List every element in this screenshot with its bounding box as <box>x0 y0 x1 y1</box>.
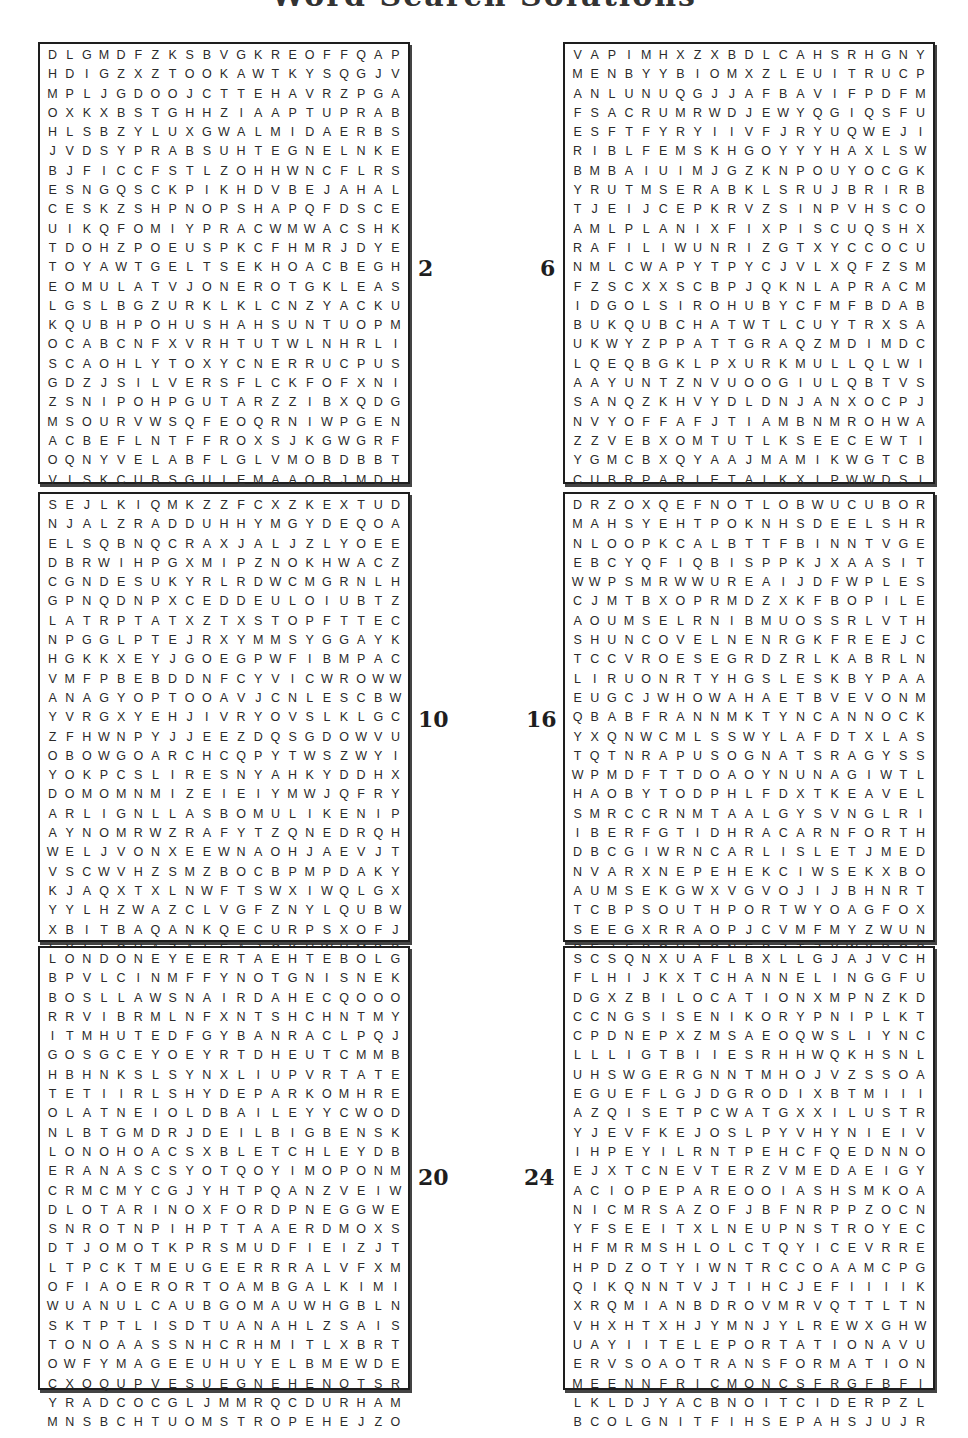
grid-letter: N <box>233 766 250 785</box>
grid-letter: H <box>113 1143 130 1162</box>
grid-letter: R <box>130 1201 147 1220</box>
grid-letter: E <box>387 1201 404 1220</box>
grid-letter: A <box>198 824 215 843</box>
grid-letter: K <box>826 451 843 470</box>
grid-letter: N <box>370 1162 387 1181</box>
grid-letter: N <box>44 1124 61 1143</box>
grid-letter: I <box>860 1124 877 1143</box>
grid-letter: J <box>95 843 112 862</box>
grid-letter: T <box>44 239 61 258</box>
grid-letter: E <box>586 1375 603 1394</box>
grid-letter: I <box>672 554 689 573</box>
grid-letter: K <box>78 766 95 785</box>
grid-letter: N <box>723 1220 740 1239</box>
grid-letter: Q <box>860 104 877 123</box>
grid-letter: L <box>843 1104 860 1123</box>
grid-letter: A <box>586 515 603 534</box>
grid-letter: T <box>895 1104 912 1123</box>
grid-letter: M <box>267 123 284 142</box>
grid-letter: A <box>569 85 586 104</box>
grid-letter: B <box>387 104 404 123</box>
grid-letter: R <box>860 278 877 297</box>
grid-letter: X <box>878 863 895 882</box>
grid-letter: T <box>620 123 637 142</box>
grid-letter: E <box>387 1355 404 1374</box>
grid-letter: Q <box>147 921 164 940</box>
grid-letter: C <box>318 1027 335 1046</box>
grid-letter: L <box>603 258 620 277</box>
grid-letter: F <box>78 1355 95 1374</box>
grid-letter: M <box>672 104 689 123</box>
grid-letter: V <box>758 1297 775 1316</box>
grid-letter: I <box>843 1278 860 1297</box>
letter-grid: SEJLKIQMKZZFCXZKEXTUDNJALZRADDUHHYMGYDEQ… <box>44 496 404 978</box>
grid-letter: K <box>740 515 757 534</box>
grid-letter: G <box>740 882 757 901</box>
grid-letter: V <box>164 278 181 297</box>
grid-letter: W <box>843 471 860 490</box>
grid-letter: O <box>843 1336 860 1355</box>
grid-letter: A <box>723 843 740 862</box>
grid-letter: U <box>61 1297 78 1316</box>
grid-letter: I <box>912 805 929 824</box>
grid-letter: L <box>95 969 112 988</box>
grid-letter: P <box>723 921 740 940</box>
grid-letter: E <box>672 181 689 200</box>
grid-letter: S <box>198 142 215 161</box>
grid-letter: G <box>164 104 181 123</box>
grid-letter: U <box>826 123 843 142</box>
grid-letter: T <box>689 515 706 534</box>
grid-letter: G <box>775 1104 792 1123</box>
grid-letter: E <box>706 863 723 882</box>
grid-letter: I <box>878 181 895 200</box>
grid-letter: A <box>740 85 757 104</box>
grid-letter: E <box>826 843 843 862</box>
grid-letter: T <box>95 921 112 940</box>
grid-letter: Q <box>809 104 826 123</box>
grid-letter: S <box>164 162 181 181</box>
grid-letter: E <box>370 413 387 432</box>
grid-letter: E <box>44 1162 61 1181</box>
grid-letter: O <box>878 708 895 727</box>
grid-letter: K <box>706 200 723 219</box>
grid-letter: H <box>826 142 843 161</box>
grid-letter: N <box>775 162 792 181</box>
grid-letter: D <box>335 863 352 882</box>
grid-letter: N <box>387 1297 404 1316</box>
grid-letter: V <box>672 631 689 650</box>
grid-letter: E <box>267 142 284 161</box>
grid-letter: U <box>809 181 826 200</box>
grid-letter: O <box>233 1201 250 1220</box>
grid-letter: B <box>672 65 689 84</box>
grid-letter: C <box>250 496 267 515</box>
grid-letter: B <box>267 863 284 882</box>
grid-letter: E <box>878 1124 895 1143</box>
grid-letter: F <box>723 1201 740 1220</box>
grid-letter: O <box>672 432 689 451</box>
grid-letter: L <box>267 1104 284 1123</box>
grid-letter: E <box>569 689 586 708</box>
grid-letter: B <box>233 1027 250 1046</box>
grid-letter: E <box>318 1239 335 1258</box>
grid-letter: O <box>638 1259 655 1278</box>
grid-letter: Y <box>689 258 706 277</box>
grid-letter: P <box>130 728 147 747</box>
grid-letter: Y <box>250 515 267 534</box>
grid-letter: P <box>198 220 215 239</box>
grid-letter: W <box>689 882 706 901</box>
grid-letter: C <box>775 46 792 65</box>
grid-letter: N <box>78 1336 95 1355</box>
grid-letter: T <box>758 316 775 335</box>
grid-letter: A <box>586 239 603 258</box>
grid-letter: C <box>113 471 130 490</box>
grid-letter: X <box>215 535 232 554</box>
grid-letter: V <box>215 708 232 727</box>
grid-letter: L <box>775 65 792 84</box>
grid-letter: W <box>284 335 301 354</box>
grid-letter: O <box>706 297 723 316</box>
grid-letter: M <box>78 1027 95 1046</box>
grid-letter: C <box>586 1182 603 1201</box>
grid-letter: D <box>826 1162 843 1181</box>
grid-letter: S <box>723 1124 740 1143</box>
grid-letter: C <box>895 1201 912 1220</box>
